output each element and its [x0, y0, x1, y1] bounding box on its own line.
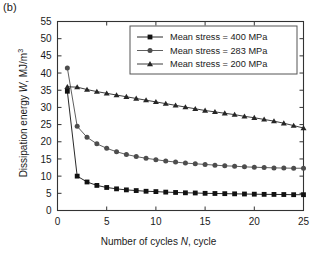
data-point [291, 166, 296, 171]
data-point [272, 192, 277, 197]
y-tick-label: 40 [40, 68, 52, 79]
y-axis-label: Dissipation energy W, MJ/m3 [17, 23, 29, 203]
data-point [144, 156, 149, 161]
data-point [124, 187, 129, 192]
y-tick-label: 20 [40, 136, 52, 147]
y-tick-label-group: 0510152025303540455055 [40, 16, 52, 216]
data-point [75, 174, 80, 179]
x-axis-label-post: , cycle [188, 236, 216, 247]
x-tick-label-group: 0510152025 [55, 216, 310, 227]
data-point [114, 186, 119, 191]
x-tick-label: 15 [200, 216, 212, 227]
y-tick-label: 0 [46, 205, 52, 216]
data-point [94, 183, 99, 188]
data-point [104, 146, 109, 151]
data-point [183, 161, 188, 166]
data-point [262, 192, 267, 197]
data-point [291, 192, 296, 197]
y-tick-label: 25 [40, 119, 52, 130]
y-tick-label: 5 [46, 188, 52, 199]
x-axis-label: Number of cycles N, cycle [0, 236, 317, 247]
y-tick-label: 15 [40, 154, 52, 165]
x-tick-label: 20 [249, 216, 261, 227]
y-tick-label: 50 [40, 33, 52, 44]
data-point [173, 190, 178, 195]
y-tick-label: 35 [40, 85, 52, 96]
data-point [163, 159, 168, 164]
series-2 [65, 65, 306, 170]
y-tick-label: 45 [40, 50, 52, 61]
data-point [104, 185, 109, 190]
data-point [134, 154, 139, 159]
data-point [232, 164, 237, 169]
plot-area: 0510152025303540455055 0510152025 Mean s… [0, 0, 317, 253]
data-point [94, 141, 99, 146]
data-point [213, 191, 218, 196]
data-point [163, 190, 168, 195]
x-axis-label-pre: Number of cycles [101, 236, 181, 247]
series-line [67, 68, 303, 168]
y-axis-label-post: , MJ/m [18, 53, 29, 83]
x-tick-label: 25 [298, 216, 310, 227]
data-point [242, 192, 247, 197]
data-point [281, 166, 286, 171]
data-point [281, 192, 286, 197]
data-point [232, 191, 237, 196]
y-axis-label-variable: W [18, 83, 29, 92]
data-point [154, 189, 159, 194]
legend-label: Mean stress = 283 MPa [170, 46, 268, 56]
y-tick-label: 30 [40, 102, 52, 113]
legend-label: Mean stress = 400 MPa [170, 32, 268, 42]
data-point [193, 161, 198, 166]
data-point [252, 192, 257, 197]
data-point [262, 165, 267, 170]
data-point [85, 135, 90, 140]
data-point [65, 89, 70, 94]
data-point [271, 165, 276, 170]
data-point [193, 191, 198, 196]
y-tick-label: 55 [40, 16, 52, 27]
data-point [212, 163, 217, 168]
data-point [301, 166, 306, 171]
data-point [114, 149, 119, 154]
data-point [203, 162, 208, 167]
data-point [173, 160, 178, 165]
panel-label: (b) [3, 1, 17, 13]
data-series-layer [64, 65, 306, 197]
data-point [144, 189, 149, 194]
series-3 [64, 84, 306, 130]
y-axis-label-superscript: 3 [17, 49, 24, 53]
data-point [75, 124, 80, 129]
data-point [203, 191, 208, 196]
data-point [124, 152, 129, 157]
data-point [148, 35, 153, 40]
data-point [242, 164, 247, 169]
data-point [252, 165, 257, 170]
legend-label: Mean stress = 200 MPa [170, 59, 268, 69]
data-point [85, 180, 90, 185]
x-tick-label: 0 [55, 216, 61, 227]
data-point [222, 163, 227, 168]
data-point [65, 65, 70, 70]
data-point [134, 188, 139, 193]
data-point [153, 157, 158, 162]
data-point [301, 192, 306, 197]
x-tick-label: 5 [104, 216, 110, 227]
figure-panel-b: (b) Dissipation energy W, MJ/m3 Number o… [0, 0, 317, 253]
y-axis-label-pre: Dissipation energy [18, 92, 29, 177]
chart-legend: Mean stress = 400 MPaMean stress = 283 M… [130, 26, 297, 74]
x-axis-label-variable: N [181, 236, 188, 247]
x-tick-label: 10 [150, 216, 162, 227]
y-tick-label: 10 [40, 171, 52, 182]
data-point [148, 48, 153, 53]
data-point [183, 190, 188, 195]
data-point [222, 191, 227, 196]
